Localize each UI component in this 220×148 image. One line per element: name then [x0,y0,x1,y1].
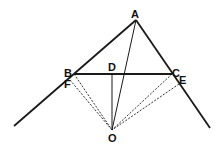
segment-CO [112,74,172,130]
segment-AO [112,20,136,130]
label-F: F [64,78,71,90]
triangle-diagram: A B D C E F O [0,0,220,148]
segment-EO [112,84,179,130]
label-E: E [179,74,186,86]
line-AB-extended [14,20,136,126]
label-A: A [131,8,139,20]
segment-BO [74,74,112,130]
label-O: O [108,132,117,144]
label-D: D [108,61,116,73]
segment-FO [70,80,112,130]
